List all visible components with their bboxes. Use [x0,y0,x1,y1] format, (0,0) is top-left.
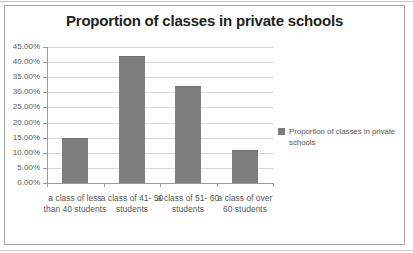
y-tick-label: 15.00% [5,133,40,143]
document-page: Proportion of classes in private schools… [0,0,413,253]
gridline [47,47,273,48]
y-tick-label: 10.00% [5,148,40,158]
x-axis-tick-mark [217,183,218,187]
gridline [47,77,273,78]
y-tick-label: 25.00% [5,102,40,112]
x-axis-tick-mark [160,183,161,187]
legend-label: Proportion of classes in private schools [289,126,402,148]
x-axis-tick-mark [47,183,48,187]
gridline [47,62,273,63]
y-axis-line [47,47,48,183]
chart-frame[interactable]: Proportion of classes in private schools… [4,5,405,245]
bar [175,86,201,183]
x-category-label: a class of 51- 60 students [156,193,220,215]
gridline [47,92,273,93]
page-rule-bottom [0,250,413,251]
x-category-label: a class of over 60 students [213,193,277,215]
bar [119,56,145,183]
x-category-label: a class of 41- 50 students [100,193,164,215]
y-tick-label: 30.00% [5,87,40,97]
bar [62,138,88,183]
x-category-label: a class of less than 40 students [43,193,107,215]
legend-marker-icon [278,128,285,135]
y-tick-label: 35.00% [5,72,40,82]
y-tick-label: 5.00% [5,163,40,173]
gridline [47,123,273,124]
y-tick-label: 40.00% [5,57,40,67]
y-tick-label: 0.00% [5,178,40,188]
chart-title: Proportion of classes in private schools [5,12,404,29]
x-axis-tick-mark [273,183,274,187]
gridline [47,107,273,108]
x-axis-tick-mark [104,183,105,187]
bar [232,150,258,183]
y-tick-label: 45.00% [5,42,40,52]
y-tick-label: 20.00% [5,118,40,128]
page-rule-top [0,1,413,2]
legend: Proportion of classes in private schools [278,126,402,148]
